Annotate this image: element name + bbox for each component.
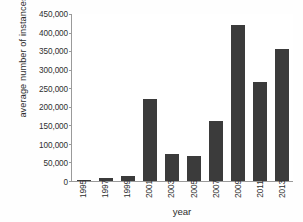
x-axis-tick-labels: 1995199719992001200320052007200920112013	[72, 183, 293, 207]
y-axis-tick-label: 450,000	[26, 10, 68, 19]
bar-series	[73, 14, 293, 181]
bar-slot	[139, 14, 161, 181]
y-axis-tick-label: 100,000	[26, 140, 68, 149]
y-axis-tick-mark	[69, 107, 73, 108]
bar-slot	[117, 14, 139, 181]
bar	[231, 25, 245, 181]
y-axis-tick-mark	[69, 125, 73, 126]
x-tick-slot: 1997	[94, 183, 116, 207]
y-axis-tick-mark	[69, 88, 73, 89]
y-axis-tick-label: 400,000	[26, 28, 68, 37]
bar-slot	[205, 14, 227, 181]
y-axis-tick-mark	[69, 70, 73, 71]
x-axis-tick-label: 2009	[233, 180, 243, 198]
x-tick-slot: 1995	[72, 183, 94, 207]
x-axis-title: year	[71, 206, 293, 217]
y-axis-tick-mark	[69, 181, 73, 182]
y-axis-tick-label: 0	[26, 178, 68, 187]
y-axis-tick-label: 150,000	[26, 122, 68, 131]
y-axis-tick-mark	[69, 14, 73, 15]
bar	[275, 49, 289, 181]
x-axis-tick-label: 2003	[166, 180, 176, 198]
x-tick-slot: 2009	[227, 183, 249, 207]
y-axis-tick-label: 300,000	[26, 66, 68, 75]
x-tick-slot: 2013	[271, 183, 293, 207]
x-axis-tick-label: 2001	[144, 180, 154, 198]
x-axis-tick-label: 1997	[100, 180, 110, 198]
x-axis-tick-label: 1999	[122, 180, 132, 198]
x-axis-tick-label: 2011	[255, 180, 265, 198]
x-axis-tick-label: 2007	[211, 180, 221, 198]
bar	[143, 99, 157, 181]
bar	[165, 154, 179, 181]
bar-slot	[161, 14, 183, 181]
bar-chart-figure: average number of instances 050,000100,0…	[0, 0, 303, 222]
y-axis-tick-mark	[69, 33, 73, 34]
x-axis-tick-label: 1995	[78, 180, 88, 198]
y-axis-tick-label: 200,000	[26, 103, 68, 112]
bar-slot	[271, 14, 293, 181]
x-tick-slot: 2011	[249, 183, 271, 207]
bar-slot	[73, 14, 95, 181]
bar	[209, 121, 223, 181]
y-axis-tick-label: 350,000	[26, 47, 68, 56]
x-tick-slot: 2001	[138, 183, 160, 207]
bar-slot	[95, 14, 117, 181]
bar	[187, 156, 201, 181]
y-axis-tick-mark	[69, 162, 73, 163]
y-axis-tick-mark	[69, 51, 73, 52]
x-tick-slot: 2005	[182, 183, 204, 207]
y-axis-tick-mark	[69, 144, 73, 145]
y-axis-tick-label: 250,000	[26, 84, 68, 93]
x-tick-slot: 2003	[160, 183, 182, 207]
y-axis-tick-labels: 050,000100,000150,000200,000250,000300,0…	[26, 12, 68, 182]
bar-slot	[249, 14, 271, 181]
bar-slot	[183, 14, 205, 181]
x-axis-tick-label: 2013	[277, 180, 287, 198]
bar	[253, 82, 267, 181]
x-tick-slot: 1999	[116, 183, 138, 207]
x-axis-tick-label: 2005	[189, 180, 199, 198]
y-axis-tick-label: 50,000	[26, 159, 68, 168]
plot-area	[71, 14, 293, 182]
bar-slot	[227, 14, 249, 181]
x-tick-slot: 2007	[205, 183, 227, 207]
